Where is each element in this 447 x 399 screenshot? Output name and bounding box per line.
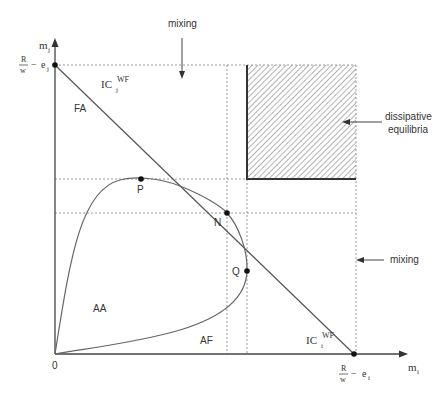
svg-text:i: i [417, 368, 419, 376]
mixing-right-label: mixing [390, 254, 419, 265]
svg-text:w: w [340, 375, 346, 384]
label-n: N [214, 217, 221, 228]
dissipative-region [247, 65, 356, 179]
svg-text:m: m [39, 39, 48, 51]
x-axis-label: m i [408, 361, 419, 376]
svg-text:i: i [368, 374, 370, 382]
point-n [224, 210, 230, 216]
svg-text:e: e [41, 59, 46, 70]
svg-text:IC: IC [101, 78, 112, 90]
origin-label: 0 [52, 360, 58, 371]
svg-text:−: − [351, 368, 357, 379]
svg-text:e: e [362, 368, 367, 379]
arrow-left-icon [356, 257, 364, 263]
svg-text:IC: IC [306, 334, 317, 346]
svg-text:R: R [341, 364, 347, 373]
x-intercept-label: R w − e i [339, 364, 370, 384]
region-fa: FA [74, 103, 87, 114]
region-af: AF [200, 335, 213, 346]
svg-text:w: w [20, 66, 26, 75]
svg-text:j: j [115, 86, 118, 94]
x-intercept-point [351, 351, 357, 357]
label-p: P [137, 184, 144, 195]
svg-text:WF: WF [322, 331, 335, 340]
dissipative-label-2: equilibria [388, 124, 428, 135]
x-axis-arrow-icon [399, 351, 408, 358]
svg-text:R: R [21, 55, 27, 64]
mixing-top-label: mixing [168, 18, 197, 29]
region-aa: AA [93, 303, 107, 314]
point-q [244, 268, 250, 274]
dissipative-label-1: dissipative [385, 111, 432, 122]
equilibrium-curve [55, 178, 247, 354]
point-p [138, 176, 144, 182]
svg-text:i: i [321, 342, 323, 350]
y-axis-label: m j [39, 39, 50, 54]
arrow-down-icon [179, 71, 185, 79]
svg-text:j: j [47, 46, 50, 54]
svg-text:m: m [408, 361, 417, 373]
svg-text:j: j [46, 65, 49, 73]
y-intercept-label: R w − e j [19, 55, 49, 75]
svg-text:−: − [31, 59, 37, 70]
diagram-canvas: mixing dissipative equilibria mixing FA … [0, 0, 447, 399]
svg-text:WF: WF [117, 75, 130, 84]
label-q: Q [232, 266, 240, 277]
ic-j-label: IC j WF [101, 75, 130, 94]
ic-i-label: IC i WF [306, 331, 335, 350]
y-intercept-point [52, 62, 58, 68]
y-axis-arrow-icon [52, 38, 59, 47]
